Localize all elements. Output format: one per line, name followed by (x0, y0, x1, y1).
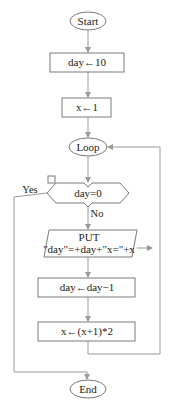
start-node: Start (70, 12, 106, 30)
decrement-day-node: day←day−1 (38, 278, 135, 297)
init-x-node: x←1 (62, 98, 111, 117)
decision-label: day=0 (74, 187, 102, 199)
init-day-node: day←10 (50, 53, 124, 72)
decrement-day-label: day←day−1 (60, 281, 114, 293)
decision-no-label: No (91, 208, 104, 219)
output-node: PUT "day"=+day+"x="+x (43, 230, 137, 257)
flowchart-canvas: Start day←10 x←1 Loop day=0 Yes No PUT "… (0, 0, 173, 412)
decision-marker-square (48, 176, 55, 183)
update-x-node: x←(x+1)*2 (38, 322, 135, 341)
loop-label: Loop (76, 141, 100, 153)
loop-node: Loop (69, 138, 107, 156)
end-node: End (70, 380, 106, 398)
output-label-line1: PUT (79, 231, 100, 243)
decision-yes-label: Yes (22, 184, 37, 195)
start-label: Start (78, 15, 99, 27)
output-label-line2: "day"=+day+"x="+x (43, 243, 135, 255)
update-x-label: x←(x+1)*2 (61, 325, 113, 338)
decision-node: day=0 Yes No (22, 176, 129, 219)
init-x-label: x←1 (76, 101, 98, 113)
end-label: End (79, 383, 97, 395)
init-day-label: day←10 (68, 56, 106, 68)
